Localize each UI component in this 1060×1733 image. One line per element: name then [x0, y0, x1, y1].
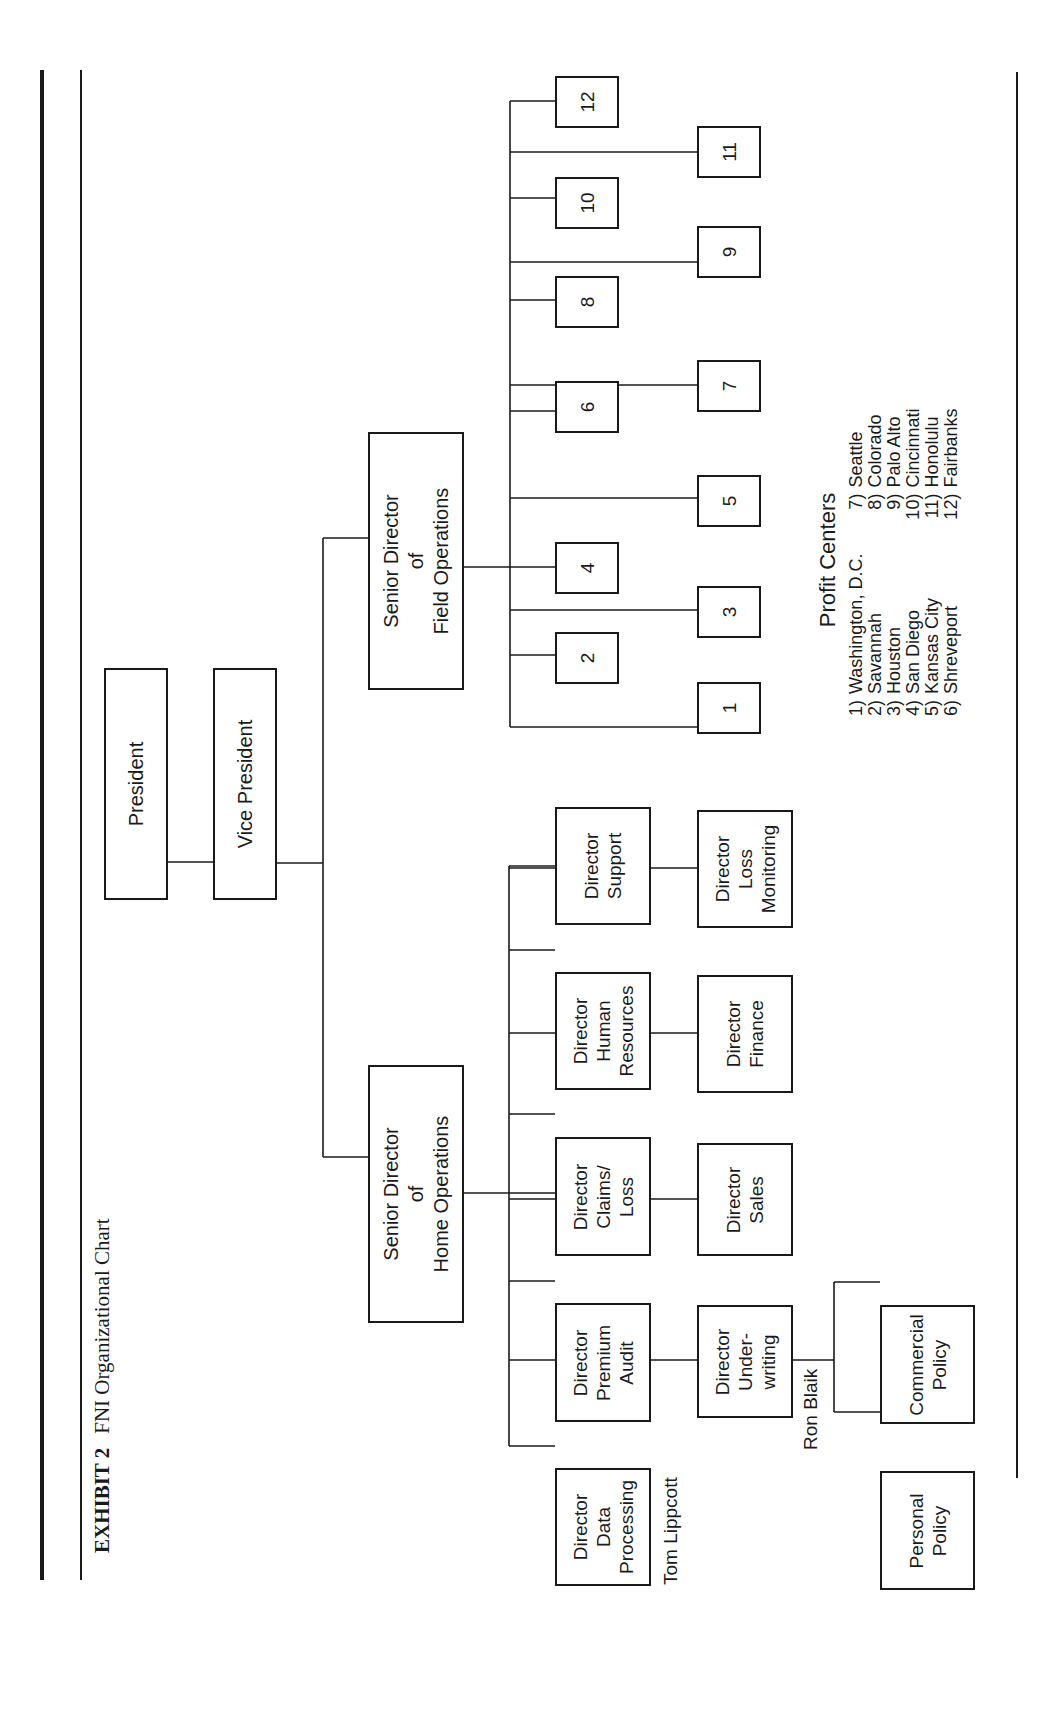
profit-center-box-9: 9: [697, 226, 761, 278]
commercial-policy-label: Commercial Policy: [905, 1314, 951, 1415]
legend-item: 8)Colorado: [866, 409, 885, 524]
director-underwriting-box: Director Under- writing: [697, 1305, 793, 1418]
profit-center-number: 11: [718, 142, 741, 162]
director-sales-box: Director Sales: [697, 1143, 793, 1256]
profit-center-number: 5: [718, 496, 741, 507]
legend-item: 1)Washington, D.C.: [847, 554, 866, 730]
personal-policy-box: Personal Policy: [880, 1471, 975, 1590]
legend-item: 4)San Diego: [904, 554, 923, 730]
profit-center-number: 6: [576, 402, 599, 413]
profit-center-box-11: 11: [697, 126, 761, 178]
director-finance-box: Director Finance: [697, 975, 793, 1093]
profit-center-number: 2: [576, 653, 599, 664]
profit-center-box-4: 4: [555, 542, 619, 594]
person-tom-lippcott: Tom Lippcott: [660, 1477, 682, 1585]
legend-item: 11)Honolulu: [923, 409, 942, 524]
director-human-resources-label: Director Human Resources: [569, 986, 638, 1077]
profit-center-box-5: 5: [697, 475, 761, 527]
senior-director-field-label: Senior Director of Field Operations: [379, 488, 454, 635]
profit-center-box-7: 7: [697, 360, 761, 412]
legend-item: 6)Shreveport: [942, 554, 961, 730]
president-box: President: [104, 668, 168, 900]
profit-center-number: 4: [576, 563, 599, 574]
profit-center-box-12: 12: [555, 76, 619, 128]
legend-column-left: 1)Washington, D.C. 2)Savannah 3)Houston …: [847, 554, 961, 730]
legend-item: 2)Savannah: [866, 554, 885, 730]
profit-center-box-1: 1: [697, 682, 761, 734]
profit-center-number: 1: [718, 703, 741, 714]
senior-director-field-box: Senior Director of Field Operations: [368, 432, 464, 690]
legend-item: 9)Palo Alto: [885, 409, 904, 524]
profit-center-number: 8: [576, 297, 599, 308]
director-underwriting-label: Director Under- writing: [711, 1328, 780, 1395]
profit-center-box-2: 2: [555, 632, 619, 684]
director-data-processing-box: Director Data Processing: [555, 1468, 651, 1586]
profit-center-number: 7: [718, 381, 741, 392]
profit-center-number: 3: [718, 607, 741, 618]
director-support-label: Director Support: [580, 833, 626, 900]
profit-center-box-6: 6: [555, 381, 619, 433]
legend-item: 5)Kansas City: [923, 554, 942, 730]
director-loss-monitoring-label: Director Loss Monitoring: [711, 825, 780, 914]
legend-item: 7)Seattle: [847, 409, 866, 524]
profit-center-number: 12: [576, 91, 599, 112]
profit-center-number: 10: [576, 192, 599, 213]
profit-centers-legend: Profit Centers 1)Washington, D.C. 2)Sava…: [818, 370, 961, 730]
director-finance-label: Director Finance: [722, 1000, 768, 1068]
director-human-resources-box: Director Human Resources: [555, 972, 651, 1090]
president-label: President: [125, 742, 148, 827]
person-ron-blaik: Ron Blaik: [800, 1369, 822, 1450]
director-sales-label: Director Sales: [722, 1166, 768, 1233]
legend-column-right: 7)Seattle 8)Colorado 9)Palo Alto 10)Cinc…: [847, 409, 961, 524]
director-premium-audit-box: Director Premium Audit: [555, 1303, 651, 1422]
senior-director-home-box: Senior Director of Home Operations: [368, 1065, 464, 1323]
director-support-box: Director Support: [555, 807, 651, 925]
director-loss-monitoring-box: Director Loss Monitoring: [697, 810, 793, 928]
director-claims-loss-box: Director Claims/ Loss: [555, 1137, 651, 1256]
profit-center-number: 9: [718, 247, 741, 258]
legend-item: 3)Houston: [885, 554, 904, 730]
vice-president-box: Vice President: [213, 668, 277, 900]
legend-item: 10)Cincinnati: [904, 409, 923, 524]
personal-policy-label: Personal Policy: [905, 1493, 951, 1568]
legend-item: 12)Fairbanks: [942, 409, 961, 524]
profit-center-box-10: 10: [555, 177, 619, 229]
director-claims-loss-label: Director Claims/ Loss: [569, 1163, 638, 1230]
director-premium-audit-label: Director Premium Audit: [569, 1324, 638, 1400]
profit-center-box-3: 3: [697, 586, 761, 638]
profit-center-box-8: 8: [555, 276, 619, 328]
legend-title: Profit Centers: [818, 370, 837, 750]
senior-director-home-label: Senior Director of Home Operations: [379, 1116, 454, 1273]
vice-president-label: Vice President: [234, 720, 257, 849]
director-data-processing-label: Director Data Processing: [569, 1480, 638, 1574]
commercial-policy-box: Commercial Policy: [880, 1305, 975, 1424]
